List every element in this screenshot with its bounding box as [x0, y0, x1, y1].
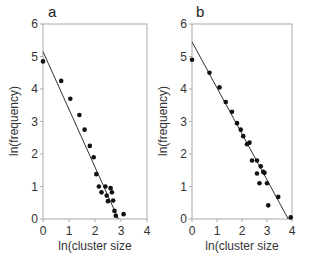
x-tick-label: 3: [264, 224, 271, 238]
y-tick-label: 6: [180, 17, 187, 31]
data-point: [190, 57, 195, 62]
y-tick-label: 5: [31, 50, 38, 64]
y-tick-label: 0: [31, 212, 38, 226]
data-point: [106, 199, 111, 204]
y-tick-label: 5: [180, 50, 187, 64]
data-point: [250, 158, 255, 163]
y-tick-label: 4: [180, 82, 187, 96]
data-point: [103, 184, 108, 189]
x-tick-label: 1: [214, 224, 221, 238]
y-tick-label: 3: [31, 115, 38, 129]
x-axis-label: ln(cluster size: [205, 239, 279, 253]
y-tick-label: 1: [31, 180, 38, 194]
data-point: [59, 79, 64, 84]
data-point: [255, 158, 260, 163]
y-axis-label: ln(frequency): [7, 86, 21, 156]
plot-frame: [192, 24, 292, 219]
data-point: [110, 190, 115, 195]
data-point: [258, 164, 263, 169]
data-point: [265, 181, 270, 186]
y-axis-label: ln(frequency): [156, 86, 170, 156]
data-point: [262, 171, 267, 176]
data-point: [238, 127, 243, 132]
data-point: [99, 190, 104, 195]
data-point: [91, 155, 96, 160]
data-point: [223, 100, 228, 105]
data-point: [276, 195, 281, 200]
y-tick-label: 6: [31, 17, 38, 31]
data-point: [217, 85, 222, 90]
y-tick-label: 0: [180, 212, 187, 226]
data-point: [257, 181, 262, 186]
panel-a-plot: 012345601234aln(frequency)ln(cluster siz…: [7, 3, 151, 253]
y-tick-label: 1: [180, 180, 187, 194]
x-tick-label: 2: [92, 224, 99, 238]
data-point: [97, 184, 102, 189]
data-point: [114, 213, 119, 218]
x-tick-label: 4: [289, 224, 296, 238]
data-point: [255, 171, 260, 176]
data-point: [235, 121, 240, 126]
data-point: [207, 70, 212, 75]
data-point: [82, 127, 87, 132]
panel-label: a: [48, 3, 57, 20]
y-tick-label: 2: [31, 147, 38, 161]
data-point: [88, 144, 93, 149]
data-point: [112, 209, 117, 214]
data-point: [104, 193, 109, 198]
data-point: [121, 212, 126, 217]
data-point: [68, 96, 73, 101]
panel-b-plot: 012345601234bln(frequency)ln(cluster siz…: [156, 3, 296, 253]
x-tick-label: 4: [144, 224, 151, 238]
x-tick-label: 0: [189, 224, 196, 238]
y-tick-label: 2: [180, 147, 187, 161]
plot-frame: [43, 24, 147, 219]
x-tick-label: 1: [66, 224, 73, 238]
y-tick-label: 4: [31, 82, 38, 96]
data-point: [230, 109, 235, 114]
data-point: [241, 134, 246, 139]
x-axis-label: ln(cluster size: [58, 239, 132, 253]
data-point: [111, 198, 116, 203]
x-tick-label: 0: [40, 224, 47, 238]
panel-label: b: [196, 3, 204, 20]
data-point: [77, 113, 82, 118]
data-point: [288, 215, 293, 220]
chart-figure: 012345601234aln(frequency)ln(cluster siz…: [0, 0, 317, 267]
x-tick-label: 2: [239, 224, 246, 238]
data-point: [94, 172, 99, 177]
data-point: [41, 59, 46, 64]
data-point: [108, 186, 113, 191]
data-point: [247, 140, 252, 145]
data-point: [266, 203, 271, 208]
y-tick-label: 3: [180, 115, 187, 129]
x-tick-label: 3: [118, 224, 125, 238]
